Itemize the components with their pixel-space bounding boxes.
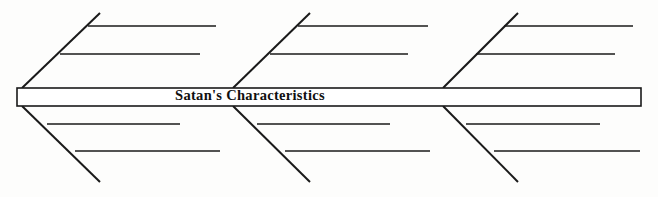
effect-label: Satan's Characteristics bbox=[175, 87, 325, 103]
spine-box bbox=[17, 88, 641, 106]
fishbone-canvas: Satan's Characteristics bbox=[0, 0, 658, 197]
fishbone-diagram: Satan's Characteristics bbox=[0, 0, 658, 197]
